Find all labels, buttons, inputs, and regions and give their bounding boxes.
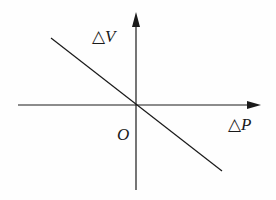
x-axis-label: △P: [228, 115, 251, 134]
x-axis-arrow-icon: [247, 101, 261, 109]
y-axis-arrow-icon: [132, 12, 140, 27]
origin-label: O: [117, 125, 129, 144]
y-axis-label: △V: [92, 27, 118, 46]
diagram-canvas: △V △P O: [0, 0, 276, 200]
